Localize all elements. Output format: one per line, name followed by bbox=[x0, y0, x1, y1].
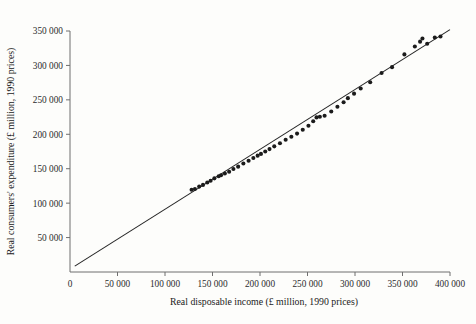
data-point bbox=[259, 152, 263, 156]
data-point bbox=[438, 34, 442, 38]
data-point bbox=[318, 115, 322, 119]
data-point bbox=[301, 128, 305, 132]
data-point bbox=[306, 124, 310, 128]
data-point bbox=[241, 162, 245, 166]
data-point bbox=[267, 147, 271, 151]
data-point bbox=[284, 138, 288, 142]
data-point bbox=[433, 35, 437, 39]
data-point bbox=[247, 159, 251, 163]
data-point bbox=[278, 141, 282, 145]
data-point bbox=[323, 114, 327, 118]
data-point bbox=[359, 86, 363, 90]
y-tick-label: 300 000 bbox=[33, 61, 64, 71]
data-point bbox=[402, 52, 406, 56]
data-point bbox=[335, 105, 339, 109]
data-point bbox=[311, 119, 315, 123]
data-point bbox=[227, 170, 231, 174]
y-tick-label: 200 000 bbox=[33, 130, 64, 140]
x-tick-label: 300 000 bbox=[340, 279, 371, 289]
x-axis-title: Real disposable income (£ million, 1990 … bbox=[170, 296, 358, 308]
data-point bbox=[352, 92, 356, 96]
x-tick-label: 50 000 bbox=[105, 279, 131, 289]
data-point bbox=[223, 171, 227, 175]
data-point bbox=[329, 110, 333, 114]
scatter-chart-figure: 50 000100 000150 000200 000250 000300 00… bbox=[0, 0, 476, 324]
x-tick-label: 0 bbox=[68, 279, 73, 289]
data-point bbox=[425, 42, 429, 46]
data-point bbox=[272, 144, 276, 148]
data-point bbox=[420, 37, 424, 41]
data-point bbox=[380, 71, 384, 75]
regression-fit-line bbox=[75, 30, 450, 267]
data-point bbox=[295, 132, 299, 136]
y-tick-label: 350 000 bbox=[33, 26, 64, 36]
data-point bbox=[368, 80, 372, 84]
data-point bbox=[390, 65, 394, 69]
data-point bbox=[413, 44, 417, 48]
y-tick-label: 100 000 bbox=[33, 199, 64, 209]
x-tick-label: 400 000 bbox=[435, 279, 466, 289]
data-point bbox=[193, 187, 197, 191]
data-point bbox=[236, 165, 240, 169]
data-point bbox=[212, 176, 216, 180]
y-tick-label: 250 000 bbox=[33, 95, 64, 105]
x-tick-label: 100 000 bbox=[150, 279, 181, 289]
x-tick-label: 350 000 bbox=[387, 279, 418, 289]
data-point bbox=[219, 173, 223, 177]
data-point bbox=[251, 156, 255, 160]
y-axis-title: Real consumers' expenditure (£ million, … bbox=[5, 48, 17, 256]
x-tick-label: 250 000 bbox=[292, 279, 323, 289]
data-point bbox=[263, 149, 267, 153]
x-tick-label: 150 000 bbox=[197, 279, 228, 289]
y-tick-label: 50 000 bbox=[37, 233, 63, 243]
plot-canvas: 50 000100 000150 000200 000250 000300 00… bbox=[0, 0, 476, 324]
data-point bbox=[342, 100, 346, 104]
data-point bbox=[289, 135, 293, 139]
y-tick-label: 150 000 bbox=[33, 164, 64, 174]
data-point bbox=[209, 179, 213, 183]
data-point bbox=[201, 183, 205, 187]
data-point bbox=[346, 96, 350, 100]
x-tick-label: 200 000 bbox=[245, 279, 276, 289]
data-point bbox=[197, 185, 201, 189]
data-point bbox=[231, 167, 235, 171]
